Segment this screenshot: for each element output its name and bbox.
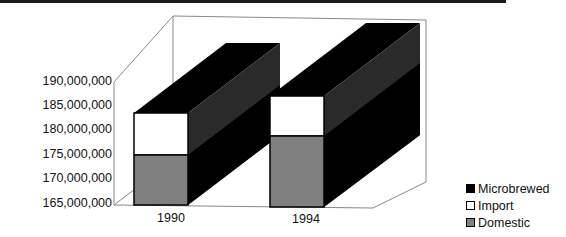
y-tick-label: 165,000,000 [4, 196, 112, 210]
legend-item-domestic: Domestic [466, 214, 550, 231]
legend-label: Import [478, 199, 513, 213]
legend: Microbrewed Import Domestic [466, 180, 550, 231]
side-wall [114, 16, 173, 82]
legend-item-import: Import [466, 197, 550, 214]
legend-label: Domestic [478, 216, 530, 230]
bar-1994 [270, 23, 420, 207]
swatch-icon [466, 201, 475, 210]
legend-label: Microbrewed [478, 182, 550, 196]
x-tick-label: 1990 [141, 211, 201, 225]
y-tick-label: 170,000,000 [4, 171, 112, 185]
bar-1990 [134, 43, 280, 205]
swatch-icon [466, 218, 475, 227]
y-tick-label: 185,000,000 [4, 98, 112, 112]
x-tick-label: 1994 [276, 212, 336, 226]
y-tick-label: 190,000,000 [4, 74, 112, 88]
swatch-icon [466, 184, 475, 193]
legend-item-microbrewed: Microbrewed [466, 180, 550, 197]
y-tick-label: 180,000,000 [4, 122, 112, 136]
y-tick-label: 175,000,000 [4, 147, 112, 161]
